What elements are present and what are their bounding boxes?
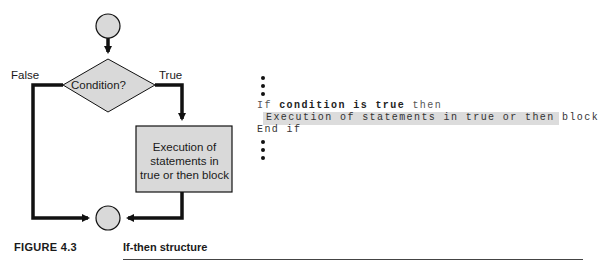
ellipsis-dot (261, 76, 265, 80)
keyword-then: then (412, 100, 442, 111)
code-line-end-if: End if (257, 124, 301, 135)
false-label: False (11, 69, 39, 81)
process-line: Execution of (137, 140, 232, 154)
ellipsis-dot (261, 140, 265, 144)
figure-title: If-then structure (123, 241, 207, 253)
process-line: statements in (137, 154, 232, 168)
true-path (155, 85, 182, 119)
box-to-end-path (128, 192, 182, 218)
keyword-if: If (257, 100, 272, 111)
true-label: True (159, 69, 182, 81)
start-node (96, 14, 120, 38)
process-box-text: Execution of statements in true or then … (137, 140, 232, 182)
ellipsis-dot (261, 156, 265, 160)
ellipsis-dot (261, 148, 265, 152)
code-line-if: If condition is true then (257, 100, 442, 111)
false-path (33, 85, 88, 218)
ellipsis-dot (261, 92, 265, 96)
ellipsis-dot (261, 84, 265, 88)
condition-text: condition is true (279, 100, 405, 111)
end-node (96, 206, 120, 230)
if-then-flowchart (0, 0, 250, 235)
decision-label: Condition? (71, 79, 126, 91)
code-line-body: Execution of statements in true or then … (266, 112, 599, 123)
figure-number: FIGURE 4.3 (14, 241, 77, 253)
process-line: true or then block (137, 168, 232, 182)
caption-rule (123, 259, 583, 260)
